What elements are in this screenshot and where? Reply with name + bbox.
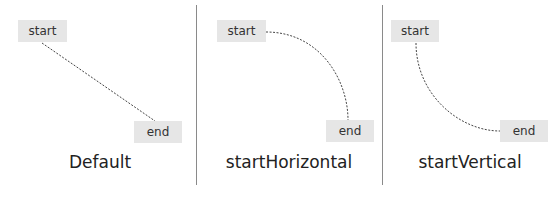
start-horizontal-caption: startHorizontal [214, 150, 364, 174]
default-caption: Default [40, 150, 160, 174]
start-horizontal-end-node: end [326, 120, 374, 142]
start-vertical-curve-connector [416, 43, 500, 131]
default-straight-connector [42, 43, 155, 121]
panel-divider [196, 5, 197, 185]
panel-divider [382, 5, 383, 185]
start-horizontal-curve-connector [266, 32, 348, 120]
start-vertical-caption: startVertical [400, 150, 540, 174]
start-vertical-start-node: start [391, 20, 439, 42]
default-start-node: start [18, 20, 67, 42]
default-end-node: end [134, 121, 182, 143]
start-horizontal-start-node: start [217, 20, 266, 42]
connector-styles-diagram: start end Default start end startHorizon… [0, 0, 560, 199]
start-vertical-end-node: end [500, 120, 548, 142]
